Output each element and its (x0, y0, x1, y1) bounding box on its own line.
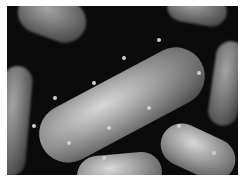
bacterium-top-left (12, 6, 92, 49)
phage (107, 126, 111, 130)
phage (92, 81, 96, 85)
phage (157, 38, 161, 42)
phage (212, 151, 216, 155)
phage (177, 124, 181, 128)
phage (147, 106, 151, 110)
phage (32, 124, 36, 128)
phage (122, 56, 126, 60)
phage (67, 141, 71, 145)
bacterium-left (7, 65, 34, 175)
bacterium-top-right (165, 6, 229, 29)
phage (102, 156, 106, 160)
bacterium-right (206, 39, 238, 127)
bacteria-image (7, 6, 238, 175)
phage (197, 71, 201, 75)
phage (53, 96, 57, 100)
